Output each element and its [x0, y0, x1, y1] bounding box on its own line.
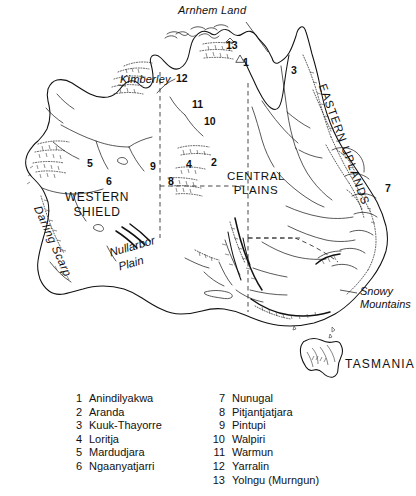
label-arnhem-land: Arnhem Land	[178, 5, 246, 17]
map-marker-6: 6	[106, 176, 112, 187]
legend-item: 8 Pitjantjatjara	[205, 406, 319, 420]
map-marker-3: 3	[291, 65, 297, 76]
legend-item: 12 Yarralin	[205, 460, 319, 474]
label-kimberley: Kimberley	[120, 74, 171, 86]
legend-number: 11	[205, 446, 225, 458]
legend-label: Pitjantjatjara	[232, 406, 293, 418]
legend-number: 2	[62, 406, 82, 418]
legend-number: 8	[205, 406, 225, 418]
legend-label: Mardudjara	[89, 446, 145, 458]
label-western-shield-line1: WESTERN	[47, 191, 147, 204]
legend-column-left: 1 Anindilyakwa 2 Aranda 3 Kuuk-Thayorre …	[62, 392, 162, 474]
map-marker-7: 7	[385, 183, 391, 194]
arnhem-land-leader	[246, 22, 268, 52]
legend-item: 5 Mardudjara	[62, 446, 162, 460]
leader-lines	[118, 22, 357, 293]
legend-item: 7 Nunugal	[205, 392, 319, 406]
legend-number: 10	[205, 433, 225, 445]
map-marker-10: 10	[204, 116, 216, 127]
map-marker-4: 4	[186, 159, 192, 170]
legend-label: Walpiri	[232, 433, 265, 445]
legend-number: 13	[205, 474, 225, 486]
legend-label: Kuuk-Thayorre	[89, 419, 162, 431]
mainland-coastline	[26, 27, 388, 326]
map-marker-12: 12	[176, 73, 188, 84]
map-marker-1: 1	[243, 57, 249, 68]
legend-item: 1 Anindilyakwa	[62, 392, 162, 406]
legend-label: Ngaanyatjarri	[89, 460, 154, 472]
map-canvas: .coast{fill:none;stroke:#111;stroke-widt…	[0, 0, 416, 388]
legend-label: Loritja	[89, 433, 119, 445]
legend-number: 5	[62, 446, 82, 458]
legend-number: 9	[205, 419, 225, 431]
legend-number: 1	[62, 392, 82, 404]
tasmania-outline	[293, 326, 343, 377]
legend-item: 4 Loritja	[62, 433, 162, 447]
legend-item: 13 Yolngu (Murngun)	[205, 474, 319, 488]
map-marker-13: 13	[226, 40, 238, 51]
legend-label: Anindilyakwa	[89, 392, 153, 404]
legend-number: 12	[205, 460, 225, 472]
legend-label: Pintupi	[232, 419, 266, 431]
legend-label: Yarralin	[232, 460, 269, 472]
label-central-plains-line1: CENTRAL	[215, 170, 297, 182]
map-marker-9: 9	[150, 161, 156, 172]
legend-item: 6 Ngaanyatjarri	[62, 460, 162, 474]
legend-label: Warmun	[232, 446, 273, 458]
legend-number: 4	[62, 433, 82, 445]
legend-item: 11 Warmun	[205, 446, 319, 460]
legend: 1 Anindilyakwa 2 Aranda 3 Kuuk-Thayorre …	[0, 392, 416, 496]
label-central-plains-line2: PLAINS	[215, 184, 297, 196]
legend-item: 10 Walpiri	[205, 433, 319, 447]
map-marker-8: 8	[168, 176, 174, 187]
map-marker-2: 2	[211, 157, 217, 168]
legend-number: 6	[62, 460, 82, 472]
map-marker-5: 5	[87, 158, 93, 169]
label-western-shield-line2: SHIELD	[47, 206, 147, 219]
legend-number: 7	[205, 392, 225, 404]
legend-item: 2 Aranda	[62, 406, 162, 420]
legend-column-right: 7 Nunugal 8 Pitjantjatjara 9 Pintupi 10 …	[205, 392, 319, 487]
label-tasmania: TASMANIA	[345, 358, 415, 371]
legend-number: 3	[62, 419, 82, 431]
legend-item: 9 Pintupi	[205, 419, 319, 433]
legend-label: Yolngu (Murngun)	[232, 474, 319, 486]
map-marker-11: 11	[192, 99, 203, 110]
label-snowy-line2: Mountains	[360, 299, 411, 311]
map-figure: .coast{fill:none;stroke:#111;stroke-widt…	[0, 0, 416, 496]
legend-label: Aranda	[89, 406, 124, 418]
legend-label: Nunugal	[232, 392, 273, 404]
label-snowy-line1: Snowy	[360, 286, 393, 298]
legend-item: 3 Kuuk-Thayorre	[62, 419, 162, 433]
